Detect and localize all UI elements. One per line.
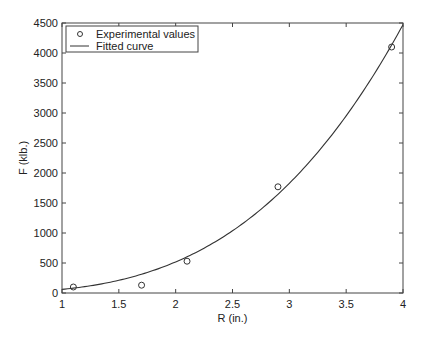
- y-axis-label: F (klb.): [17, 141, 29, 175]
- x-axis-ticks: 11.522.533.54: [59, 23, 406, 310]
- x-axis-label: R (in.): [218, 312, 248, 324]
- y-tick-label: 4000: [34, 47, 58, 59]
- x-tick-label: 1.5: [111, 298, 126, 310]
- legend: Experimental values Fitted curve: [66, 26, 198, 52]
- y-tick-label: 3500: [34, 77, 58, 89]
- fitted-curve: [62, 25, 403, 290]
- data-point-circle-icon: [184, 258, 190, 264]
- x-tick-label: 2.5: [225, 298, 240, 310]
- x-tick-label: 4: [400, 298, 406, 310]
- y-tick-label: 2500: [34, 137, 58, 149]
- chart: 11.522.533.54 05001000150020002500300035…: [0, 0, 425, 340]
- y-tick-label: 1000: [34, 227, 58, 239]
- y-tick-label: 4500: [34, 17, 58, 29]
- y-tick-label: 2000: [34, 167, 58, 179]
- x-tick-label: 3.5: [339, 298, 354, 310]
- x-tick-label: 1: [59, 298, 65, 310]
- y-axis-ticks: 050010001500200025003000350040004500: [34, 17, 403, 299]
- y-tick-label: 3000: [34, 107, 58, 119]
- y-tick-label: 0: [52, 287, 58, 299]
- data-point-circle-icon: [275, 184, 281, 190]
- axes-frame: [62, 23, 403, 293]
- x-tick-label: 3: [286, 298, 292, 310]
- fitted-curve-line: [62, 25, 403, 290]
- experimental-points: [70, 44, 394, 290]
- x-tick-label: 2: [173, 298, 179, 310]
- y-tick-label: 1500: [34, 197, 58, 209]
- data-point-circle-icon: [70, 284, 76, 290]
- legend-label-fitted: Fitted curve: [96, 40, 153, 52]
- legend-label-experimental: Experimental values: [96, 28, 196, 40]
- data-point-circle-icon: [139, 282, 145, 288]
- y-tick-label: 500: [40, 257, 58, 269]
